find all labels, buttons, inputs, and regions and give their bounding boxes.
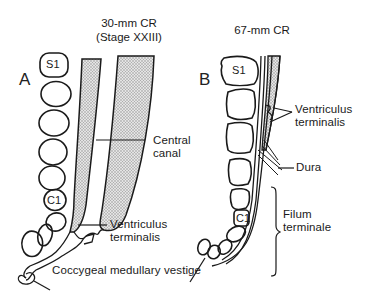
vertebra-b-5 — [231, 189, 250, 210]
vertebra-a-9 — [35, 223, 54, 248]
vertebra-c1-b-label: C1 — [236, 212, 250, 225]
vertebra-a-5 — [39, 166, 65, 190]
label-coccygeal-vestige: Coccygeal medullary vestige — [52, 264, 201, 277]
panel-b-leaders — [190, 108, 294, 282]
leader-coccygeal — [34, 281, 50, 290]
leader-ventriculus-b-1 — [274, 108, 292, 112]
label-central-canal: Central canal — [153, 134, 191, 160]
label-filum-terminale: Filum terminale — [283, 208, 331, 234]
cord-a-left-wall — [70, 59, 101, 232]
vertebra-s1-b-label: S1 — [232, 64, 246, 77]
vertebra-a-7 — [44, 210, 69, 234]
panel-a-letter: A — [19, 70, 30, 90]
vertebra-b-4 — [229, 159, 252, 186]
panel-a-title-line2: (Stage XXIII) — [74, 30, 184, 44]
label-ventriculus-b: Ventriculus terminalis — [295, 103, 352, 129]
panel-b-title: 67-mm CR — [222, 23, 302, 37]
label-ventriculus-a: Ventriculus terminalis — [110, 218, 167, 244]
label-dura: Dura — [296, 161, 321, 174]
panel-a-title-line1: 30-mm CR — [74, 16, 184, 30]
vertebra-a-4 — [39, 139, 67, 165]
panel-b-spinal-cord — [212, 56, 280, 266]
vertebra-a-2 — [41, 82, 71, 107]
panel-b-letter: B — [199, 70, 210, 90]
vertebra-s1-a-label: S1 — [46, 58, 60, 71]
vertebra-c1-a-label: C1 — [47, 194, 61, 207]
vertebra-a-3 — [39, 110, 69, 136]
vertebra-b-2 — [227, 89, 256, 119]
panel-a-title: 30-mm CR (Stage XXIII) — [74, 16, 184, 44]
vertebra-b-3 — [227, 123, 254, 154]
filum-brace — [271, 187, 280, 276]
panel-a-spinal-cord — [70, 56, 154, 232]
cord-a-right-wall — [100, 56, 154, 231]
vertebra-b-10 — [196, 237, 213, 256]
